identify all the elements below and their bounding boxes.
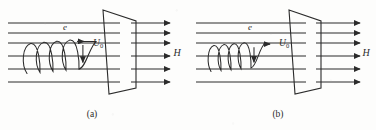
figure-canvas: eU0H(a)eU0H(b): [0, 0, 376, 130]
field-label: H: [172, 47, 181, 58]
panel-a: eU0H(a): [8, 10, 181, 120]
velocity-subscript: 0: [286, 42, 289, 49]
velocity-label: U0: [93, 38, 103, 49]
velocity-subscript: 0: [100, 42, 103, 49]
electron-label: e: [63, 22, 67, 32]
velocity-label: U0: [279, 38, 289, 49]
electron-label: e: [248, 22, 252, 32]
electron-helix-path: [23, 40, 96, 73]
panel-caption: (b): [272, 109, 283, 120]
field-lines-right-b: [316, 23, 360, 82]
panel-caption: (a): [87, 109, 98, 120]
field-label: H: [361, 47, 370, 58]
panel-b: eU0H(b): [196, 10, 370, 120]
physics-figure: eU0H(a)eU0H(b): [0, 0, 376, 130]
field-lines-right-a: [131, 23, 170, 82]
electron-helix-path: [208, 43, 269, 72]
